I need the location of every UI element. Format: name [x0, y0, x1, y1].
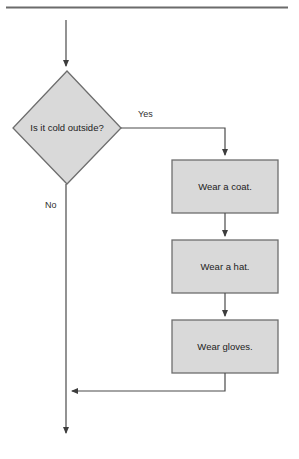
decision-label: Is it cold outside? [13, 122, 121, 133]
branch-label-yes: Yes [138, 109, 153, 120]
flowchart-canvas [0, 0, 299, 459]
process-label-wear-a-hat: Wear a hat. [172, 261, 278, 272]
process-label-wear-a-coat: Wear a coat. [172, 181, 278, 192]
gloves-to-merge-connector [72, 373, 225, 391]
flowchart-figure: Is it cold outside? Yes No Wear a coat. … [0, 0, 299, 459]
process-label-wear-gloves: Wear gloves. [172, 341, 278, 352]
branch-label-no: No [45, 200, 57, 211]
yes-connector [121, 128, 225, 155]
